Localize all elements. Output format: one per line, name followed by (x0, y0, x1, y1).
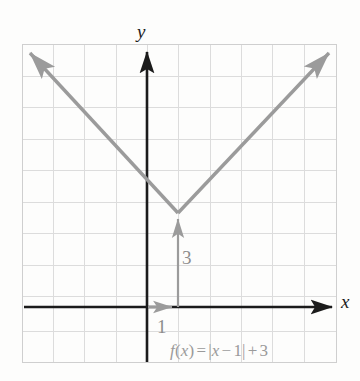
equation-var: x (181, 341, 189, 360)
horizontal-shift-label: 1 (157, 317, 167, 336)
equation-plus: + (246, 341, 260, 360)
coordinate-plane (0, 0, 360, 381)
vertical-shift-label: 3 (182, 248, 192, 267)
equation-inner-const: 1 (233, 341, 242, 360)
plot-panel (22, 44, 337, 363)
equation-constant: 3 (260, 341, 269, 360)
equation-equals: = (194, 341, 208, 360)
equation-caption: f(x)=|x−1|+3 (170, 342, 268, 359)
graph-figure: y x 3 1 f(x)=|x−1|+3 (0, 0, 360, 381)
x-axis-label: x (341, 292, 349, 311)
equation-inner-var: x (212, 341, 220, 360)
y-axis-label: y (137, 22, 145, 41)
equation-minus: − (220, 341, 234, 360)
